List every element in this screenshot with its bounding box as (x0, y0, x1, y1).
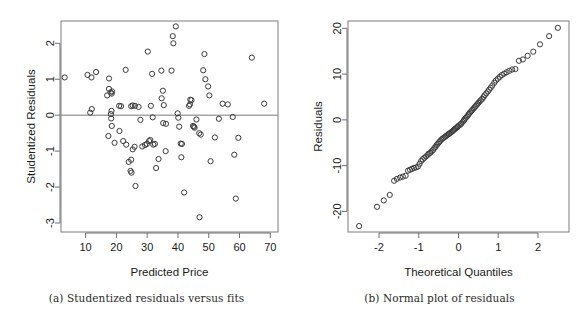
y-tick-label: 1 (44, 76, 56, 82)
x-tick-label: 60 (233, 241, 245, 253)
data-point (531, 49, 536, 54)
plot-frame (61, 21, 278, 232)
data-point (62, 75, 67, 80)
data-point (212, 135, 217, 140)
data-point (133, 183, 138, 188)
caption-panel-a: (a) Studentized residuals versus fits (0, 292, 293, 316)
scatter-plot-a: 10203040506070210-1-2-3Predicted PriceSt… (0, 0, 293, 290)
y-tick-label: -20 (331, 203, 343, 219)
caption-panel-b: (b) Normal plot of residuals (293, 292, 586, 316)
data-point (182, 190, 187, 195)
y-tick-label: 0 (331, 117, 343, 123)
x-tick-label: 50 (203, 241, 215, 253)
data-point (160, 88, 165, 93)
y-tick-label: -1 (44, 146, 56, 156)
data-point (537, 42, 542, 47)
data-point (208, 159, 213, 164)
data-point (262, 101, 267, 106)
data-point (207, 93, 212, 98)
data-point (173, 24, 178, 29)
data-point (555, 25, 560, 30)
data-point (236, 135, 241, 140)
data-point (89, 75, 94, 80)
data-point (249, 55, 254, 60)
data-point (374, 204, 379, 209)
panel-studentized-residuals: 10203040506070210-1-2-3Predicted PriceSt… (0, 0, 293, 290)
x-axis-title: Predicted Price (131, 266, 209, 278)
y-axis-title: Residuals (312, 101, 324, 152)
data-point (106, 76, 111, 81)
y-tick-label: -10 (331, 158, 343, 174)
data-point (225, 102, 230, 107)
data-point (381, 198, 386, 203)
data-point (109, 123, 114, 128)
y-axis-title: Studentized Residuals (25, 69, 37, 184)
data-point (138, 117, 143, 122)
data-point (216, 116, 221, 121)
data-point (220, 101, 225, 106)
data-point (159, 96, 164, 101)
data-point (145, 49, 150, 54)
data-point (148, 103, 153, 108)
panel-normal-qq: -2-101220100-10-20Theoretical QuantilesR… (293, 0, 586, 290)
data-point (170, 34, 175, 39)
data-point (201, 68, 206, 73)
data-point (387, 192, 392, 197)
data-point (206, 84, 211, 89)
y-tick-label: 0 (44, 112, 56, 118)
x-tick-label: -2 (374, 241, 384, 253)
data-point (179, 155, 184, 160)
data-point (161, 103, 166, 108)
data-point (159, 68, 164, 73)
data-point (163, 149, 168, 154)
data-point (194, 117, 199, 122)
y-tick-label: 10 (331, 68, 343, 80)
x-tick-label: 10 (79, 241, 91, 253)
data-point (129, 170, 134, 175)
data-point (203, 77, 208, 82)
x-tick-label: -1 (414, 241, 424, 253)
scatter-plot-b: -2-101220100-10-20Theoretical QuantilesR… (293, 0, 586, 290)
x-tick-label: 2 (535, 241, 541, 253)
x-tick-label: 30 (141, 241, 153, 253)
figure-container: 10203040506070210-1-2-3Predicted PriceSt… (0, 0, 586, 326)
y-tick-label: 2 (44, 40, 56, 46)
data-point (233, 196, 238, 201)
x-tick-label: 20 (110, 241, 122, 253)
data-point (197, 215, 202, 220)
data-point (93, 69, 98, 74)
data-point (109, 108, 114, 113)
data-point (232, 152, 237, 157)
data-point (123, 67, 128, 72)
data-point (112, 140, 117, 145)
data-point (150, 71, 155, 76)
data-point (124, 142, 129, 147)
x-tick-label: 1 (495, 241, 501, 253)
data-point (357, 223, 362, 228)
x-tick-label: 0 (455, 241, 461, 253)
data-point (148, 137, 153, 142)
x-tick-label: 40 (172, 241, 184, 253)
y-tick-label: 20 (331, 22, 343, 34)
data-point (169, 68, 174, 73)
data-point (177, 124, 182, 129)
x-tick-label: 70 (264, 241, 276, 253)
data-point (525, 53, 530, 58)
data-point (154, 165, 159, 170)
data-point (547, 34, 552, 39)
data-point (202, 51, 207, 56)
data-point (106, 133, 111, 138)
data-point (156, 156, 161, 161)
y-tick-label: -2 (44, 182, 56, 192)
data-point (171, 41, 176, 46)
x-axis-title: Theoretical Quantiles (404, 266, 513, 278)
data-point (117, 128, 122, 133)
y-tick-label: -3 (44, 218, 56, 228)
data-point (513, 66, 518, 71)
